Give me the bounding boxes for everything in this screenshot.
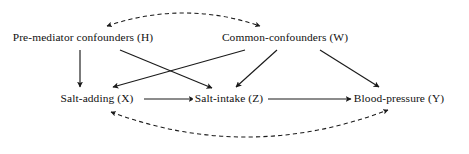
edge-X-to-Y-dashed: [111, 110, 388, 137]
edge-layer: [0, 0, 469, 154]
edge-H-to-W-dashed: [107, 13, 260, 26]
edge-H-to-Z: [120, 50, 212, 88]
edge-W-to-Y: [320, 50, 379, 87]
edge-W-to-Z: [236, 50, 277, 87]
node-label-X: Salt-adding (X): [59, 92, 136, 105]
node-label-H: Pre-mediator confounders (H): [11, 31, 155, 44]
node-label-W: Common-confounders (W): [220, 31, 350, 44]
node-label-Y: Blood-pressure (Y): [352, 92, 446, 105]
causal-diagram: Pre-mediator confounders (H) Common-conf…: [0, 0, 469, 154]
node-label-Z: Salt-intake (Z): [193, 92, 265, 105]
